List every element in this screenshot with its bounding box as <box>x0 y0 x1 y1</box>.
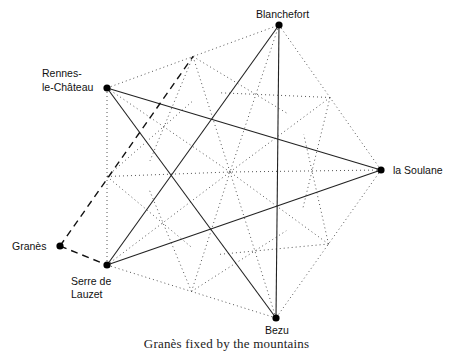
midpoint-construction-line <box>150 57 193 161</box>
point-granes <box>56 242 63 249</box>
midpoint-to-center-line <box>193 57 230 173</box>
pentagram-edge <box>107 170 381 265</box>
pentagram-edge <box>107 25 279 265</box>
label-rennes-line1: Rennes- <box>42 67 82 79</box>
label-bezu: Bezu <box>265 324 289 336</box>
midpoint-construction-line <box>149 190 191 292</box>
midpoint-construction-line <box>193 57 287 114</box>
vertex-to-center-line <box>230 172 276 318</box>
point-rennes-le-chateau <box>103 84 110 91</box>
point-la-soulane <box>377 166 384 173</box>
point-blanchefort <box>275 21 282 28</box>
vertex-to-center-line <box>107 88 230 172</box>
vertex-to-center-line <box>230 170 381 172</box>
pentagram-lines <box>107 25 381 318</box>
midpoint-construction-line <box>218 244 329 255</box>
pentagram-edge <box>107 88 381 170</box>
point-serre-de-lauzet <box>103 261 110 268</box>
point-bezu <box>272 314 279 321</box>
label-serre-line2: Lauzet <box>71 288 103 300</box>
midpoint-to-center-line <box>230 172 329 244</box>
vertex-to-center-line <box>230 25 279 172</box>
label-serre-line1: Serre de <box>71 275 111 287</box>
midpoint-construction-line <box>219 93 331 98</box>
label-granes: Granès <box>12 240 46 252</box>
midpoint-to-center-line <box>192 172 231 292</box>
granes-dashed-edge <box>60 246 107 265</box>
figure-caption: Granès fixed by the mountains <box>0 336 453 352</box>
label-la-soulane: la Soulane <box>393 164 443 176</box>
midpoint-construction-line <box>107 101 193 177</box>
midpoint-to-center-line <box>107 172 230 177</box>
label-blanchefort: Blanchefort <box>256 8 309 20</box>
vertex-to-center-line <box>107 172 230 265</box>
label-rennes-line2: le-Château <box>42 81 94 93</box>
midpoint-construction-line <box>192 231 287 292</box>
midpoint-to-center-line <box>230 98 330 173</box>
pentagram-edge <box>107 88 276 318</box>
midpoint-construction-line <box>107 177 192 248</box>
pentagram-diagram: Blanchefort la Soulane Bezu Serre de Lau… <box>0 0 453 355</box>
